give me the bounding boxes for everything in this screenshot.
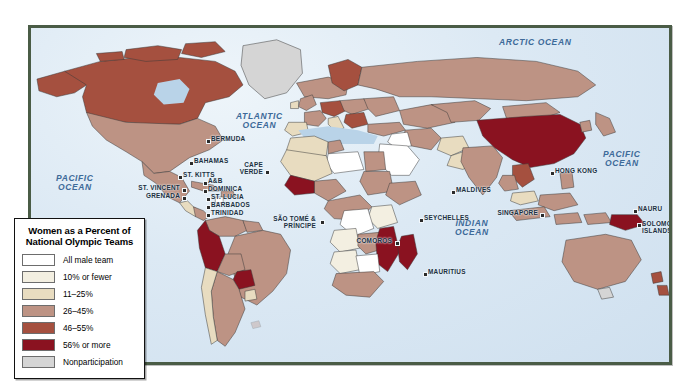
marker-grenada xyxy=(182,196,187,201)
map-legend: Women as a Percent ofNational Olympic Te… xyxy=(14,218,145,379)
legend-rows: All male team10% or fewer11–25%26–45%46–… xyxy=(22,252,137,369)
marker-barbados xyxy=(206,205,211,210)
legend-swatch-eleven-25 xyxy=(22,288,55,300)
marker-singapore xyxy=(540,213,545,218)
marker-comoros xyxy=(395,241,400,246)
legend-label-fortysix-55: 46–55% xyxy=(63,323,93,333)
marker-mauritius xyxy=(423,272,428,277)
marker-cape-verde xyxy=(265,170,270,175)
legend-label-fiftysix-or-more: 56% or more xyxy=(63,340,111,350)
marker-st-lucia xyxy=(206,197,211,202)
marker-sao-tome-principe xyxy=(320,220,325,225)
legend-label-eleven-25: 11–25% xyxy=(63,289,93,299)
marker-nauru xyxy=(633,209,638,214)
legend-label-nonparticipation: Nonparticipation xyxy=(63,357,123,367)
legend-swatch-twentysix-45 xyxy=(22,305,55,317)
legend-swatch-ten-or-fewer xyxy=(22,271,55,283)
marker-solomon-islands xyxy=(637,223,642,228)
legend-item-nonparticipation: Nonparticipation xyxy=(22,354,137,369)
legend-item-fortysix-55: 46–55% xyxy=(22,320,137,335)
marker-a-and-b xyxy=(203,181,208,186)
marker-maldives xyxy=(451,190,456,195)
legend-label-twentysix-45: 26–45% xyxy=(63,306,93,316)
marker-hong-kong xyxy=(550,171,555,176)
legend-item-twentysix-45: 26–45% xyxy=(22,303,137,318)
legend-swatch-fiftysix-or-more xyxy=(22,339,55,351)
marker-bermuda xyxy=(206,139,211,144)
marker-st-vincent xyxy=(182,188,187,193)
marker-bahamas xyxy=(189,161,194,166)
legend-swatch-nonparticipation xyxy=(22,356,55,368)
marker-st-kitts xyxy=(178,175,183,180)
legend-label-ten-or-fewer: 10% or fewer xyxy=(63,272,112,282)
legend-item-ten-or-fewer: 10% or fewer xyxy=(22,269,137,284)
legend-label-all-male-team: All male team xyxy=(63,255,113,265)
legend-swatch-all-male-team xyxy=(22,254,55,266)
marker-dominica xyxy=(203,189,208,194)
marker-trinidad xyxy=(206,213,211,218)
legend-title: Women as a Percent ofNational Olympic Te… xyxy=(22,225,137,247)
legend-item-eleven-25: 11–25% xyxy=(22,286,137,301)
legend-swatch-fortysix-55 xyxy=(22,322,55,334)
marker-seychelles xyxy=(419,218,424,223)
legend-item-all-male-team: All male team xyxy=(22,252,137,267)
legend-item-fiftysix-or-more: 56% or more xyxy=(22,337,137,352)
